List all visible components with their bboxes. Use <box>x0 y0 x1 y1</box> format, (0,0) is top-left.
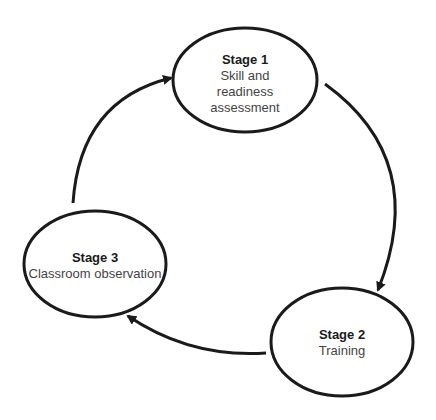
stage-3-desc-line-1: Classroom observation <box>25 266 165 282</box>
stage-3-label: Stage 3 Classroom observation <box>25 250 165 282</box>
stage-1-desc-line-2: readiness <box>195 84 295 100</box>
stage-3-title: Stage 3 <box>25 250 165 266</box>
arrow-stage3-to-stage1 <box>73 78 171 203</box>
arrow-stage1-to-stage2 <box>325 84 395 290</box>
stage-2-label: Stage 2 Training <box>292 327 392 359</box>
stage-1-title: Stage 1 <box>195 52 295 68</box>
stage-2-desc-line-1: Training <box>292 343 392 359</box>
stage-1-desc-line-3: assessment <box>195 100 295 116</box>
stage-1-desc-line-1: Skill and <box>195 68 295 84</box>
arrow-stage2-to-stage3 <box>128 316 266 354</box>
stage-2-title: Stage 2 <box>292 327 392 343</box>
stage-1-label: Stage 1 Skill and readiness assessment <box>195 52 295 116</box>
